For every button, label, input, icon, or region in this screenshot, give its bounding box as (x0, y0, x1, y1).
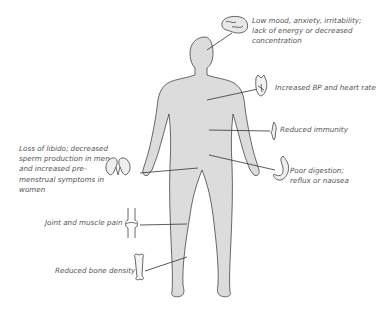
label-mood: Low mood, anxiety, irritability; lack of… (252, 16, 370, 47)
heart-icon (256, 75, 267, 96)
label-joints: Joint and muscle pain (45, 218, 135, 228)
brain-icon (222, 16, 248, 33)
label-heart: Increased BP and heart rate (275, 83, 385, 93)
stomach-icon (273, 156, 288, 180)
label-digestion: Poor digestion; reflux or nausea (290, 166, 365, 186)
label-immunity: Reduced immunity (280, 125, 380, 135)
human-body-silhouette (143, 37, 259, 297)
label-bone: Reduced bone density (55, 266, 145, 276)
label-libido: Loss of libido; decreased sperm producti… (19, 144, 121, 195)
thymus-icon (271, 122, 276, 140)
